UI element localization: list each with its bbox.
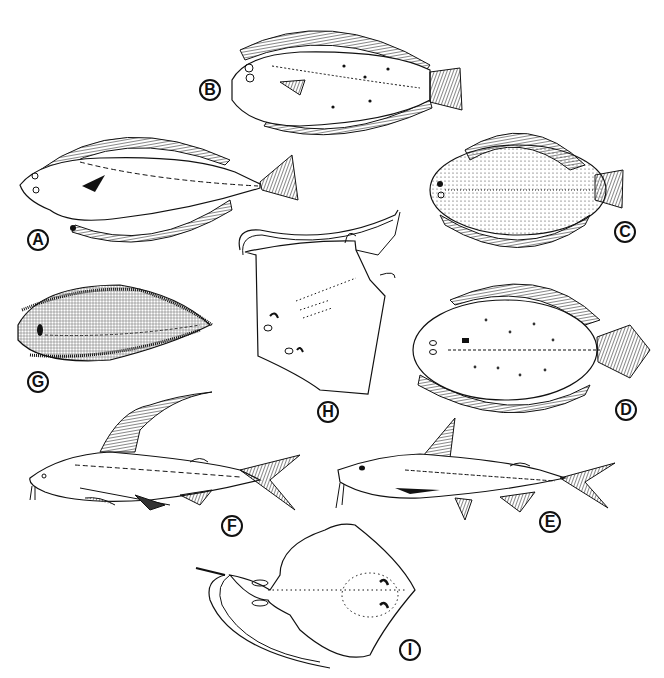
- catfish-f-drawing: [30, 392, 300, 510]
- label-a-text: A: [32, 232, 44, 248]
- label-h: H: [317, 401, 339, 423]
- ray-h-drawing: [239, 210, 400, 394]
- label-e: E: [539, 511, 561, 533]
- fish-d-drawing: [413, 284, 650, 413]
- ray-i-drawing: [196, 524, 415, 668]
- label-c-text: C: [619, 224, 631, 240]
- catfish-e-drawing: [336, 418, 615, 520]
- label-g: G: [27, 371, 49, 393]
- label-c: C: [614, 221, 636, 243]
- fish-b-drawing: [232, 31, 462, 135]
- label-f: F: [221, 515, 243, 537]
- fish-g-drawing: [18, 285, 212, 361]
- fish-drawings: [0, 0, 664, 678]
- label-f-text: F: [227, 518, 237, 534]
- label-d: D: [615, 399, 637, 421]
- fish-a-drawing: [20, 137, 298, 242]
- label-i: I: [399, 639, 421, 661]
- fish-c-drawing: [430, 133, 623, 247]
- label-g-text: G: [32, 374, 44, 390]
- label-a: A: [27, 229, 49, 251]
- fish-illustration-plate: A B C D E F G H I: [0, 0, 664, 678]
- label-b: B: [199, 79, 221, 101]
- label-d-text: D: [620, 402, 632, 418]
- label-i-text: I: [408, 642, 412, 658]
- label-b-text: B: [204, 82, 216, 98]
- label-h-text: H: [322, 404, 334, 420]
- label-e-text: E: [545, 514, 556, 530]
